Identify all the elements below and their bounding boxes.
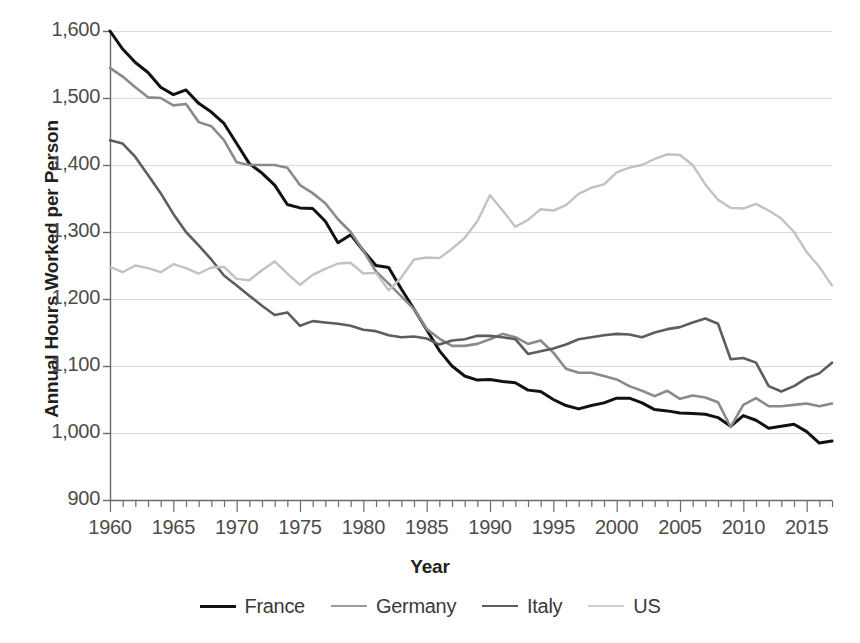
chart-figure: Annual Hours Worked per Person 1,6001,50… xyxy=(0,0,860,643)
legend-line-swatch xyxy=(482,605,518,607)
legend-label: France xyxy=(245,596,305,616)
legend-label: Italy xyxy=(527,596,562,616)
legend-label: Germany xyxy=(376,596,456,616)
x-axis-title: Year xyxy=(0,556,860,578)
legend-item-germany[interactable]: Germany xyxy=(331,596,456,616)
legend-item-france[interactable]: France xyxy=(200,596,305,616)
legend-line-swatch xyxy=(588,605,624,607)
legend-line-swatch xyxy=(331,605,367,607)
x-axis-tick-labels: 1960196519701975198019851990199520002005… xyxy=(0,0,860,643)
legend-label: US xyxy=(633,596,660,616)
figure-caption xyxy=(30,633,830,643)
legend-item-italy[interactable]: Italy xyxy=(482,596,562,616)
legend-item-us[interactable]: US xyxy=(588,596,660,616)
chart-legend: FranceGermanyItalyUS xyxy=(0,596,860,616)
legend-line-swatch xyxy=(200,605,236,608)
x-tick-label: 2015 xyxy=(767,516,847,539)
